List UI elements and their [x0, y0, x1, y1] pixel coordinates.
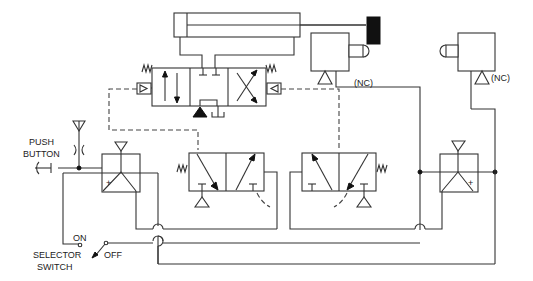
limit-valve-2: (NC) [440, 33, 510, 136]
relay-valve-left: + [102, 142, 158, 192]
spring-icon [177, 165, 187, 172]
plus-label-left: + [106, 178, 111, 188]
pressure-source-icon [357, 197, 371, 207]
relay-valve-right: + [418, 141, 497, 192]
selector-switch-label-1: SELECTOR [33, 250, 82, 260]
pilot-valve-right [290, 153, 415, 229]
rod-cam-block [367, 17, 380, 44]
selector-off-label: OFF [104, 250, 122, 260]
pilot-valve-left [177, 153, 277, 229]
pilot-operator-right [267, 83, 281, 94]
pressure-source-icon [318, 71, 332, 84]
selector-on-label: ON [73, 233, 87, 243]
push-button-label-2: BUTTON [23, 149, 60, 159]
spring-icon [377, 165, 387, 172]
pressure-source-icon [195, 197, 209, 207]
push-button-assembly: PUSH BUTTON [23, 121, 102, 174]
plus-label-right: + [468, 178, 473, 188]
pressure-source-icon [475, 71, 489, 84]
limit-valve-1: (NC) [311, 33, 420, 230]
pilot-operator-left [137, 83, 151, 94]
restrictor-icon [74, 145, 76, 155]
selector-switch-label-2: SWITCH [37, 262, 73, 272]
spring-icon [142, 65, 152, 72]
limit-valve-1-label: (NC) [354, 78, 373, 88]
pneumatic-circuit-diagram: (NC) (NC) PUSH BUTTON + [0, 0, 533, 281]
main-valve [137, 65, 281, 117]
selector-switch[interactable]: ON OFF SELECTOR SWITCH [33, 233, 420, 272]
spring-icon [266, 65, 276, 72]
limit-valve-2-label: (NC) [491, 73, 510, 83]
pilot-line-right [281, 89, 339, 150]
pressure-source-icon [193, 107, 207, 117]
push-button-label-1: PUSH [29, 137, 54, 147]
switch-on-contact [78, 243, 82, 247]
